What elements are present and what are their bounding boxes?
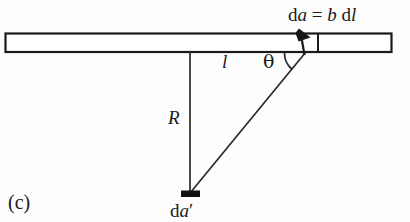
slant-line-l xyxy=(191,53,306,193)
horizontal-bar xyxy=(6,34,392,53)
length-label-l: l xyxy=(222,52,227,71)
angle-arc-theta xyxy=(284,53,292,69)
element-label-text: da = b dl xyxy=(288,4,356,25)
element-label-da-equals-b-dl: da = b dl xyxy=(288,5,356,24)
angle-label-theta: θ xyxy=(263,52,274,71)
target-label-da-prime: da′ xyxy=(170,201,193,220)
distance-label-R: R xyxy=(168,108,180,127)
physics-diagram-panel-c xyxy=(0,0,410,222)
panel-label-c: (c) xyxy=(8,192,30,212)
target-marker-da-prime xyxy=(181,191,200,198)
target-label-text: da′ xyxy=(170,200,193,221)
